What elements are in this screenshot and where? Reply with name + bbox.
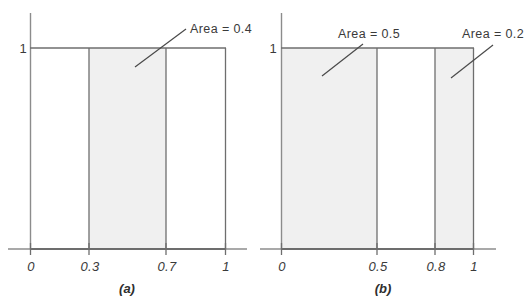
panel-b-x-tick-label-0: 0 (278, 259, 286, 274)
panel-b: 1 0 0.5 0.8 1 Area = 0.5 Area = 0.2 (b) (260, 13, 524, 296)
panel-b-x-tick-label-1: 1 (470, 259, 478, 274)
panel-a-x-tick-label-0: 0 (27, 259, 35, 274)
panel-b-caption: (b) (375, 281, 392, 296)
panel-a-caption: (a) (119, 281, 135, 296)
panel-a-y-tick-label-1: 1 (19, 41, 26, 56)
panel-b-annotation-label-2: Area = 0.2 (462, 27, 524, 41)
panel-a-x-tick-label-0.7: 0.7 (158, 259, 177, 274)
panel-a: 1 0 0.3 0.7 1 Area = 0.4 (a) (8, 13, 252, 296)
panel-b-annotation-label-1: Area = 0.5 (338, 27, 400, 41)
panel-b-x-tick-label-0.5: 0.5 (369, 259, 388, 274)
panel-b-shaded-region-2 (435, 48, 474, 249)
panel-a-shaded-region-1 (89, 48, 166, 249)
panel-b-shaded-region-1 (281, 48, 377, 249)
two-panel-uniform-density-figure: 1 0 0.3 0.7 1 Area = 0.4 (a) (0, 0, 526, 307)
panel-b-x-tick-label-0.8: 0.8 (427, 259, 446, 274)
figure-container: 1 0 0.3 0.7 1 Area = 0.4 (a) (0, 0, 526, 307)
panel-a-x-tick-label-1: 1 (222, 259, 230, 274)
panel-a-annotation-label-1: Area = 0.4 (190, 22, 252, 36)
panel-a-x-tick-label-0.3: 0.3 (81, 259, 100, 274)
panel-b-y-tick-label-1: 1 (269, 41, 276, 56)
